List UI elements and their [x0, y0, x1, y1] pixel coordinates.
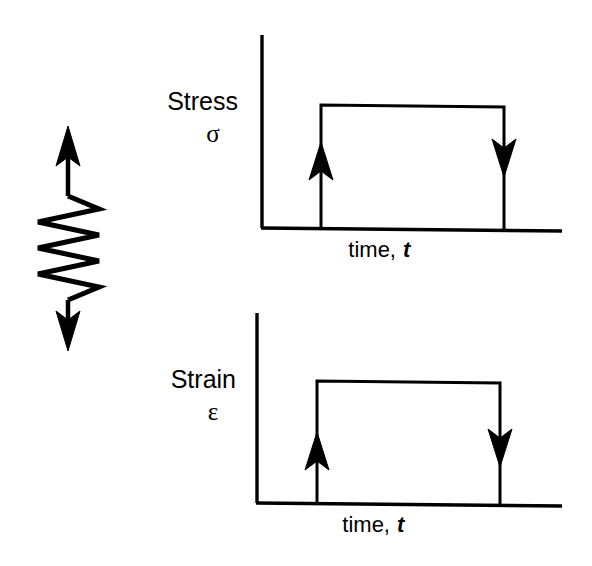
spring-coil-zigzag — [38, 196, 99, 300]
strain-x-axis-label-variable: t — [397, 512, 406, 537]
strain-step-trace — [317, 381, 500, 504]
stress-y-axis-symbol: σ — [206, 120, 220, 147]
strain-y-axis-symbol: ε — [208, 398, 219, 425]
stress-x-axis — [261, 228, 562, 231]
stress-x-axis-label-variable: t — [403, 237, 412, 262]
stress-step-trace — [321, 105, 504, 229]
strain-y-axis-label: Strain — [171, 365, 236, 393]
stress-plot: Stress σ time, t — [167, 35, 562, 262]
strain-plot: Strain ε time, t — [171, 313, 562, 537]
figure-canvas: Stress σ time, t Strain ε time, — [0, 0, 592, 566]
figure-root: Stress σ time, t Strain ε time, — [0, 0, 592, 566]
stress-x-axis-label: time, — [348, 237, 396, 262]
strain-x-axis — [256, 503, 562, 506]
stress-y-axis-label: Stress — [167, 87, 238, 115]
spring-element — [38, 126, 99, 351]
strain-x-axis-label: time, — [342, 512, 390, 537]
